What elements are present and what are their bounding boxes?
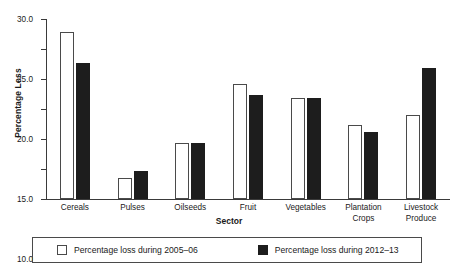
x-axis-title: Sector [0,216,458,226]
bar-group-bars [104,19,162,199]
x-axis-category-label: Vegetables [285,203,326,214]
y-axis-tick-label: 15.0 [17,195,33,204]
bar-group-bars [392,19,450,199]
bar [348,125,362,199]
bar-group: Livestock Produce [392,19,450,199]
plot-area: 0.05.010.015.020.025.030.0 CerealsPulses… [46,19,450,199]
bar-group-bars [277,19,335,199]
bar [60,32,74,199]
bar-group-bars [161,19,219,199]
x-axis-category-label: Oilseeds [174,203,206,214]
bar [406,115,420,199]
bar [76,63,90,199]
bar [422,68,436,199]
bar [249,95,263,199]
y-axis-tick-label: 10.0 [17,255,33,264]
bar-group: Vegetables [277,19,335,199]
bar [233,84,247,199]
bar-group: Oilseeds [161,19,219,199]
y-axis-tick-label: 30.0 [17,15,33,24]
bar [191,143,205,199]
x-axis-category-label: Pulses [120,203,145,214]
y-axis-tick-label: 20.0 [17,135,33,144]
legend-item: Percentage loss during 2005–06 [57,245,198,255]
y-axis-tick: 0.0 [41,199,46,200]
y-axis-tick-label: 25.0 [17,75,33,84]
bar-group: Fruit [219,19,277,199]
chart-legend: Percentage loss during 2005–06 Percentag… [32,237,422,263]
x-axis-line [46,199,450,200]
bar [118,178,132,199]
bar-group-bars [219,19,277,199]
bar-group-bars [46,19,104,199]
y-axis-title: Percentage Loss [13,43,23,163]
bar-group: Cereals [46,19,104,199]
bar-group: Pulses [104,19,162,199]
bar-group: Plantation Crops [335,19,393,199]
x-axis-category-label: Cereals [61,203,89,214]
bar [175,143,189,199]
legend-swatch-series-0 [57,245,67,255]
legend-label-series-1: Percentage loss during 2012–13 [275,245,399,255]
bar [364,132,378,199]
chart-container: Percentage Loss 0.05.010.015.020.025.030… [0,0,458,273]
bar [307,98,321,199]
x-axis-category-label: Fruit [240,203,256,214]
bar [291,98,305,199]
bar [134,171,148,199]
legend-item: Percentage loss during 2012–13 [258,245,399,255]
legend-swatch-series-1 [258,245,268,255]
legend-label-series-0: Percentage loss during 2005–06 [74,245,198,255]
bar-group-bars [335,19,393,199]
